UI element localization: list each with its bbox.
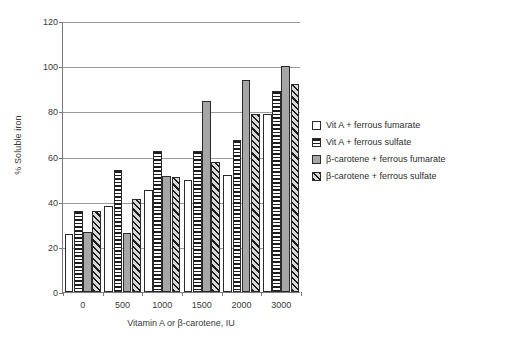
bar [132,199,141,292]
x-tick-label: 1000 [152,300,172,310]
x-tick-label: 500 [115,300,130,310]
legend-label: Vit A + ferrous fumarate [326,121,420,130]
legend-item: β-carotene + ferrous fumarate [312,151,502,168]
x-tick-mark [142,292,143,296]
legend-label: β-carotene + ferrous fumarate [326,155,445,164]
bar-group [104,22,140,292]
bar-group [184,22,220,292]
x-tick-mark [182,292,183,296]
bar [74,211,83,292]
bar [233,140,242,292]
x-tick-mark [261,292,262,296]
x-tick-label: 0 [80,300,85,310]
bar [272,91,281,292]
legend-item: β-carotene + ferrous sulfate [312,168,502,185]
legend-label: β-carotene + ferrous sulfate [326,172,436,181]
y-tick-label: 80 [48,107,58,117]
chart-figure: % Soluble iron 020406080100120 050010001… [0,0,508,346]
bar [281,66,290,292]
bar [193,151,202,292]
bars-layer [63,22,300,292]
y-tick-label: 120 [43,17,58,27]
bar [104,206,113,292]
y-tick-label: 100 [43,62,58,72]
caption-sliver [18,338,490,345]
x-tick-label: 3000 [271,300,291,310]
bar-group [263,22,299,292]
legend-swatch-icon [312,172,321,181]
legend-item: Vit A + ferrous fumarate [312,117,502,134]
bar [114,170,123,292]
legend-item: Vit A + ferrous sulfate [312,134,502,151]
x-tick-mark [103,292,104,296]
bar [144,190,153,292]
bar [251,114,260,292]
x-axis-title: Vitamin A or β-carotene, IU [62,318,300,328]
chart-legend: Vit A + ferrous fumarateVit A + ferrous … [312,117,502,185]
x-tick-mark [222,292,223,296]
bar [65,234,74,292]
bar [202,101,211,292]
bar-group [144,22,180,292]
y-tick-label: 20 [48,243,58,253]
bar [153,151,162,292]
x-tick-label: 2000 [231,300,251,310]
bar-group [65,22,101,292]
x-tick-mark [63,292,64,296]
legend-swatch-icon [312,155,321,164]
y-axis-title: % Soluble iron [13,75,23,215]
legend-label: Vit A + ferrous sulfate [326,138,411,147]
bar [123,233,132,292]
legend-swatch-icon [312,121,321,130]
y-tick-label: 40 [48,198,58,208]
bar-group [223,22,259,292]
bar [291,84,300,292]
bar [83,232,92,292]
plot-area: 020406080100120 05001000150020003000 [62,22,300,293]
y-tick-label: 60 [48,153,58,163]
bar [172,177,181,292]
y-tick-label: 0 [53,288,58,298]
bar [184,180,193,292]
x-tick-label: 1500 [192,300,212,310]
legend-swatch-icon [312,138,321,147]
x-tick-mark [301,292,302,296]
bar [223,175,232,292]
bar [92,211,101,292]
bar [211,162,220,292]
bar [242,80,251,292]
bar [263,114,272,292]
bar [162,176,171,292]
